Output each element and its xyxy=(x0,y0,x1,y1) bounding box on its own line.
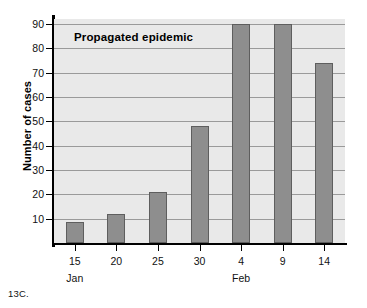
bar xyxy=(315,63,333,243)
x-tick-mark xyxy=(200,245,201,251)
x-month-label: Jan xyxy=(55,272,95,284)
bar xyxy=(107,214,125,243)
x-tick-label: 20 xyxy=(96,255,136,267)
y-tick-label: 40 xyxy=(20,141,44,151)
bar xyxy=(149,192,167,243)
gridline xyxy=(54,73,345,74)
bar xyxy=(274,24,292,243)
plot-area: Propagated epidemic xyxy=(54,19,345,243)
y-tick-label: 30 xyxy=(20,165,44,175)
y-tick-label: 60 xyxy=(20,92,44,102)
bar xyxy=(66,222,84,243)
x-tick-mark xyxy=(75,245,76,251)
bar xyxy=(191,126,209,243)
y-tick-label: 80 xyxy=(20,43,44,53)
x-tick-label: 30 xyxy=(180,255,220,267)
y-tick-label: 90 xyxy=(20,19,44,29)
gridline xyxy=(54,97,345,98)
x-tick-mark xyxy=(283,245,284,251)
x-tick-label: 4 xyxy=(221,255,261,267)
x-tick-mark xyxy=(116,245,117,251)
gridline xyxy=(54,48,345,49)
x-tick-label: 14 xyxy=(304,255,344,267)
y-tick-label: 50 xyxy=(20,116,44,126)
x-tick-mark xyxy=(158,245,159,251)
gridline xyxy=(54,121,345,122)
chart-title: Propagated epidemic xyxy=(74,31,193,43)
gridline xyxy=(54,24,345,25)
x-tick-mark xyxy=(324,245,325,251)
bar xyxy=(232,24,250,243)
x-month-label: Feb xyxy=(221,272,261,284)
x-tick-mark xyxy=(241,245,242,251)
y-tick-label: 20 xyxy=(20,189,44,199)
y-tick-label: 70 xyxy=(20,68,44,78)
figure-caption: 13C. xyxy=(8,288,29,299)
figure: Number of cases 102030405060708090 Propa… xyxy=(0,0,367,308)
x-tick-label: 15 xyxy=(55,255,95,267)
y-tick-label: 10 xyxy=(20,214,44,224)
x-tick-label: 9 xyxy=(263,255,303,267)
x-tick-label: 25 xyxy=(138,255,178,267)
